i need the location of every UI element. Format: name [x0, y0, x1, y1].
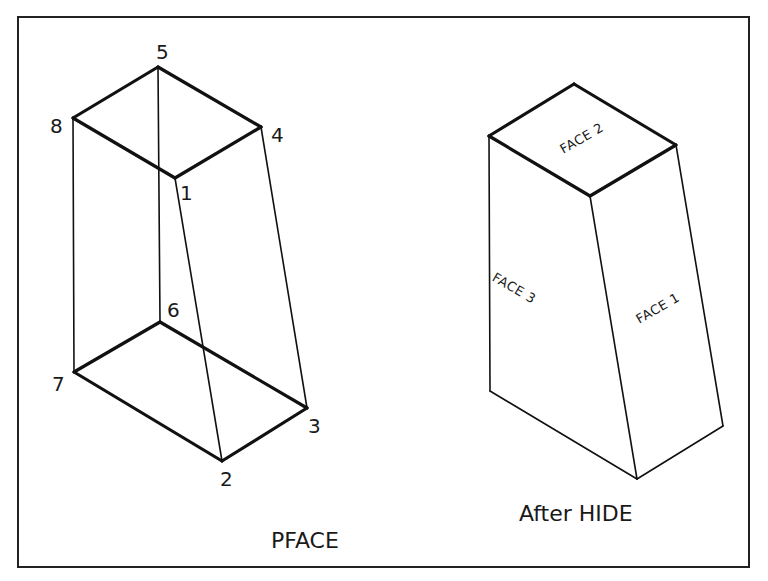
thin-edge-bottom_front-bottom_right [637, 426, 723, 479]
hidden-line-edges [489, 84, 723, 479]
thin-edge-4-3 [261, 127, 307, 408]
vertex-label-5: 5 [156, 40, 169, 64]
thick-edge-5-4 [158, 67, 261, 127]
face-label-2: FACE 2 [557, 120, 606, 157]
pface-caption: PFACE [271, 528, 339, 553]
thick-edge-4-1 [175, 127, 261, 178]
thin-edge-1-2 [175, 178, 222, 461]
face-label-3: FACE 3 [490, 270, 539, 307]
after-hide-view: FACE 2FACE 3FACE 1 After HIDE [489, 84, 723, 526]
thick-edge-2-3 [222, 408, 307, 461]
vertex-label-8: 8 [50, 114, 63, 138]
thick-edge-6-7 [74, 322, 160, 372]
thick-edge-top_right-top_front [590, 145, 676, 196]
vertex-label-1: 1 [180, 181, 193, 205]
thin-edge-5-6 [158, 67, 160, 322]
thin-edge-bottom_left-bottom_front [490, 391, 637, 479]
vertex-label-2: 2 [220, 467, 233, 491]
pface-diagram: 12345678 PFACE FACE 2FACE 3FACE 1 After … [0, 0, 768, 581]
diagram-frame [18, 17, 749, 567]
thick-edge-7-2 [74, 372, 222, 461]
thick-edge-6-3 [160, 322, 307, 408]
after-hide-caption: After HIDE [519, 501, 633, 526]
vertex-label-3: 3 [308, 414, 321, 438]
pface-wireframe-view: 12345678 PFACE [50, 40, 339, 553]
thick-edge-8-1 [73, 118, 175, 178]
thin-edge-top_left-bottom_left [489, 136, 490, 391]
thick-edge-5-8 [73, 67, 158, 118]
thin-edge-top_right-bottom_right [676, 145, 723, 426]
thin-edge-top_front-bottom_front [590, 196, 637, 479]
vertex-label-4: 4 [271, 123, 284, 147]
vertex-label-7: 7 [52, 372, 65, 396]
thick-edge-top_back-top_left [489, 84, 574, 136]
face-label-1: FACE 1 [633, 290, 682, 327]
vertex-label-6: 6 [167, 298, 180, 322]
thin-edge-8-7 [73, 118, 74, 372]
face-labels: FACE 2FACE 3FACE 1 [490, 120, 682, 327]
